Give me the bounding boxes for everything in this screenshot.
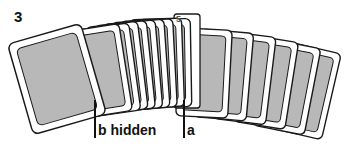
card-fan-figure: 3 5 b hidden a [0, 0, 347, 151]
card-fan-illustration [0, 0, 347, 151]
card-index-label: 5 [176, 14, 181, 24]
figure-number: 3 [14, 8, 22, 25]
label-b-hidden: b hidden [98, 122, 156, 138]
leader-line-b [94, 100, 96, 138]
label-a: a [187, 122, 195, 138]
leader-line-a [183, 100, 185, 138]
card-fan [8, 14, 342, 140]
